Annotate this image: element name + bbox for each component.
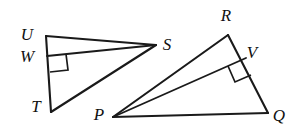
label-V: V (247, 43, 260, 62)
label-R: R (220, 6, 232, 25)
geometry-canvas: U W T S R V P Q (0, 0, 291, 135)
label-W: W (20, 47, 36, 66)
label-P: P (93, 105, 104, 124)
label-U: U (21, 25, 35, 44)
segment-P-Q (113, 113, 268, 117)
right-angle-marker-W (50, 54, 68, 72)
segment-U-S (46, 36, 156, 45)
label-S: S (163, 35, 172, 54)
segment-P-V (113, 58, 246, 117)
label-Q: Q (273, 106, 285, 125)
segment-U-T (46, 36, 51, 112)
geometry-diagram: U W T S R V P Q (0, 0, 291, 135)
left-triangle-group (46, 36, 156, 112)
label-T: T (31, 97, 42, 116)
